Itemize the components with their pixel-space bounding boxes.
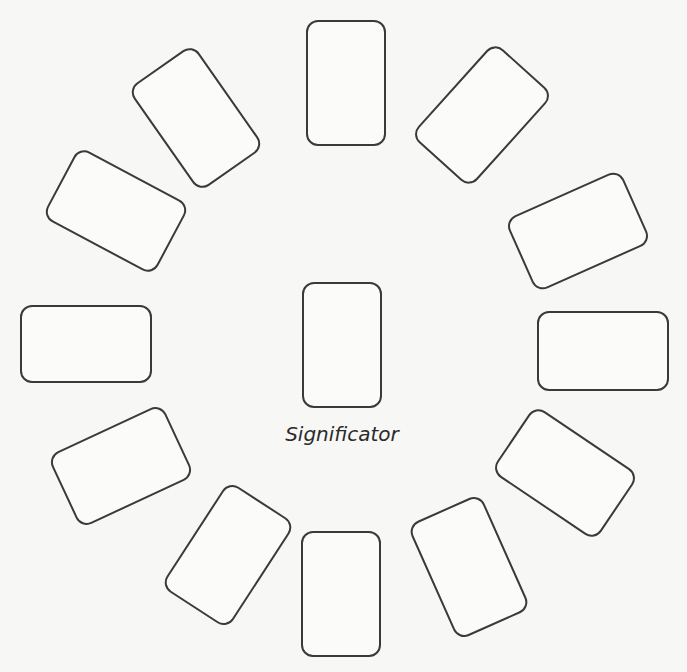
tarot-spread-diagram: Significator [0, 0, 687, 672]
card-right-lower [490, 405, 639, 542]
card-left [20, 305, 152, 383]
card-upper-right [410, 41, 554, 188]
card-upper-left [127, 43, 265, 192]
card-top [306, 20, 386, 146]
card-bottom [301, 531, 381, 657]
card-right-upper [504, 169, 652, 293]
card-lower-right [407, 493, 531, 641]
significator-label: Significator [285, 422, 399, 446]
card-center-significator [302, 282, 382, 408]
card-right [537, 311, 669, 391]
card-lower-left [160, 480, 296, 629]
card-left-upper [42, 146, 191, 276]
card-left-lower [47, 403, 195, 529]
